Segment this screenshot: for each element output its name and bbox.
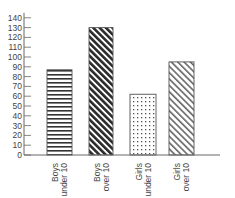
y-tick-label: 130 <box>8 23 22 33</box>
svg-text:over 10: over 10 <box>181 163 191 192</box>
y-tick-label: 0 <box>17 150 22 160</box>
y-tick-label: 20 <box>13 130 23 140</box>
x-category-label: Girlsover 10 <box>172 163 191 192</box>
svg-text:over 10: over 10 <box>101 163 111 192</box>
y-tick-label: 80 <box>13 72 23 82</box>
y-tick-label: 110 <box>8 42 22 52</box>
y-tick-label: 60 <box>13 91 23 101</box>
y-tick-label: 30 <box>13 121 23 131</box>
bar-girls-under-10 <box>130 94 156 155</box>
y-tick-label: 90 <box>13 62 23 72</box>
bar-chart: 0102030405060708090100110120130140 Boysu… <box>0 0 235 198</box>
x-axis-labels: Boysunder 10Boysover 10Girlsunder 10Girl… <box>50 163 191 197</box>
bar-boys-over-10 <box>89 28 113 155</box>
svg-text:under 10: under 10 <box>143 163 153 197</box>
bar-boys-under-10 <box>47 70 72 155</box>
y-tick-label: 120 <box>8 32 22 42</box>
svg-text:under 10: under 10 <box>59 163 69 197</box>
y-tick-label: 10 <box>13 140 23 150</box>
bars <box>47 28 194 155</box>
x-category-label: Girlsunder 10 <box>134 163 153 197</box>
y-tick-label: 70 <box>13 81 23 91</box>
y-axis: 0102030405060708090100110120130140 <box>8 13 31 160</box>
y-tick-label: 100 <box>8 52 22 62</box>
y-tick-label: 50 <box>13 101 23 111</box>
x-category-label: Boysunder 10 <box>50 163 69 197</box>
y-tick-label: 140 <box>8 13 22 23</box>
y-tick-label: 40 <box>13 111 23 121</box>
bar-girls-over-10 <box>169 62 194 155</box>
x-category-label: Boysover 10 <box>92 163 111 192</box>
